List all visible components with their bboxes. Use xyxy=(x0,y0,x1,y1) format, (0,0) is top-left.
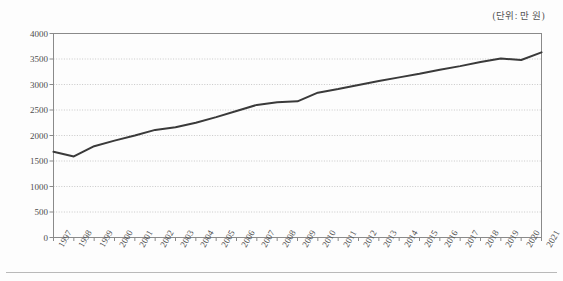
chart-page: (단위: 만 원) 050010001500200025003000350040… xyxy=(0,0,563,281)
x-axis-tick-label: 2013 xyxy=(381,228,399,249)
x-axis-tick-label: 2018 xyxy=(483,228,501,249)
x-axis-tick-label: 2021 xyxy=(544,228,562,249)
x-axis-tick-label: 2014 xyxy=(402,228,420,249)
x-axis-tick-label: 2002 xyxy=(158,228,176,249)
x-axis-tick-label: 2007 xyxy=(259,228,277,249)
x-axis-tick-label: 1997 xyxy=(56,228,74,249)
x-axis-labels: 1997199819992000200120022003200420052006… xyxy=(0,0,563,281)
x-axis-tick-label: 2016 xyxy=(442,228,460,249)
x-axis-tick-label: 2009 xyxy=(300,228,318,249)
x-axis-tick-label: 2017 xyxy=(463,228,481,249)
x-axis-tick-label: 2004 xyxy=(198,228,216,249)
x-axis-tick-label: 2020 xyxy=(524,228,542,249)
x-axis-tick-label: 2015 xyxy=(422,228,440,249)
x-axis-tick-label: 2000 xyxy=(117,228,135,249)
bottom-divider xyxy=(6,272,557,273)
x-axis-tick-label: 2003 xyxy=(178,228,196,249)
x-axis-tick-label: 1998 xyxy=(76,228,94,249)
line-chart: 05001000150020002500300035004000 1997199… xyxy=(0,0,563,281)
x-axis-tick-label: 2008 xyxy=(280,228,298,249)
x-axis-tick-label: 2011 xyxy=(341,228,358,248)
x-axis-tick-label: 2001 xyxy=(137,228,155,249)
x-axis-tick-label: 2006 xyxy=(239,228,257,249)
x-axis-tick-label: 2005 xyxy=(219,228,237,249)
x-axis-tick-label: 2010 xyxy=(320,228,338,249)
x-axis-tick-label: 1999 xyxy=(97,228,115,249)
x-axis-tick-label: 2012 xyxy=(361,228,379,249)
x-axis-tick-label: 2019 xyxy=(503,228,521,249)
